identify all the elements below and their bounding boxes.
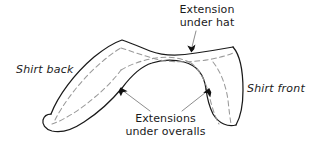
- arrowhead-overalls-left: [119, 88, 128, 97]
- dashed-left-wing-seam: [55, 48, 121, 120]
- outline-right-edge: [233, 47, 243, 125]
- leader-line-overalls-left: [124, 92, 150, 112]
- diagram-canvas: Extension under hat Extensions under ove…: [0, 0, 315, 145]
- outline-top-edge: [51, 40, 233, 114]
- leader-lines-group: [124, 31, 206, 111]
- label-shirt-back: Shirt back: [16, 63, 73, 76]
- callout-label-extension-under-hat: Extension under hat: [157, 3, 257, 29]
- callout-label-extensions-under-overalls: Extensions under overalls: [108, 112, 223, 138]
- arrowhead-extension-hat: [187, 45, 195, 53]
- label-shirt-front: Shirt front: [247, 82, 305, 95]
- leader-line-overalls-right: [182, 93, 206, 112]
